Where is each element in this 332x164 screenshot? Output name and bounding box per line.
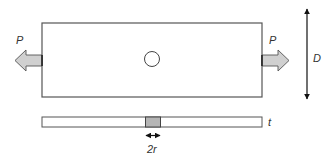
thickness-label: t xyxy=(268,116,272,128)
load-label-right: P xyxy=(269,34,277,46)
plate-diagram: P P D t 2r xyxy=(0,0,332,164)
load-arrow-right-icon xyxy=(262,50,289,71)
load-label-left: P xyxy=(16,34,24,46)
hole-circle xyxy=(145,52,160,67)
load-arrow-left-icon xyxy=(15,50,42,71)
hole-section xyxy=(146,117,161,127)
width-label: D xyxy=(313,52,321,64)
hole-diameter-label: 2r xyxy=(146,143,158,155)
